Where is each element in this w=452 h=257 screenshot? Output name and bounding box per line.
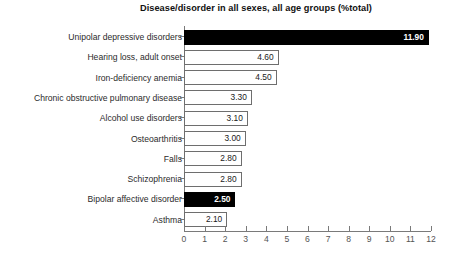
bar-row: Bipolar affective disorder2.50 [0, 189, 452, 209]
x-axis-tick-label: 4 [256, 234, 276, 244]
plot-area: Unipolar depressive disorders11.90Hearin… [0, 0, 452, 257]
x-axis-tick-label: 2 [215, 234, 235, 244]
bar-value-label: 4.50 [255, 71, 271, 84]
category-label: Unipolar depressive disorders [68, 27, 182, 47]
x-axis-tick [184, 226, 185, 231]
x-axis-tick-label: 8 [339, 234, 359, 244]
bar-row: Iron-deficiency anemia4.50 [0, 68, 452, 88]
bar-row: Chronic obstructive pulmonary disease3.3… [0, 88, 452, 108]
bar-value-label: 11.90 [403, 31, 424, 44]
bar-value-label: 3.30 [231, 91, 247, 104]
x-axis-tick [431, 226, 432, 231]
bar-row: Falls2.80 [0, 149, 452, 169]
bar-value-label: 3.10 [226, 112, 242, 125]
x-axis-tick [308, 226, 309, 231]
category-label: Hearing loss, adult onset [87, 47, 182, 67]
bar-row: Hearing loss, adult onset4.60 [0, 47, 452, 67]
x-axis-tick-label: 12 [421, 234, 441, 244]
x-axis-tick [390, 226, 391, 231]
bar-value-label: 2.80 [220, 152, 236, 165]
bar: 2.80 [184, 172, 242, 187]
bar: 3.30 [184, 90, 252, 105]
category-label: Asthma [153, 210, 182, 230]
category-label: Chronic obstructive pulmonary disease [34, 88, 182, 108]
x-axis-tick [287, 226, 288, 231]
x-axis-tick [246, 226, 247, 231]
x-axis-tick-label: 11 [400, 234, 420, 244]
category-label: Osteoarthritis [131, 129, 182, 149]
bar-row: Unipolar depressive disorders11.90 [0, 27, 452, 47]
bar-chart: Disease/disorder in all sexes, all age g… [0, 0, 452, 257]
x-axis-tick-label: 3 [236, 234, 256, 244]
x-axis-tick-label: 5 [277, 234, 297, 244]
bar-row: Schizophrenia2.80 [0, 169, 452, 189]
bar: 2.80 [184, 151, 242, 166]
category-label: Falls [164, 149, 182, 169]
bar: 4.60 [184, 50, 279, 65]
bar: 2.50 [184, 192, 235, 207]
bar-row: Osteoarthritis3.00 [0, 129, 452, 149]
bar: 3.00 [184, 131, 246, 146]
x-axis-tick-label: 1 [195, 234, 215, 244]
x-axis-tick-label: 6 [298, 234, 318, 244]
x-axis-tick [225, 226, 226, 231]
bar-value-label: 4.60 [257, 51, 273, 64]
x-axis-tick [205, 226, 206, 231]
bar: 3.10 [184, 111, 248, 126]
x-axis-tick [349, 226, 350, 231]
x-axis-tick [410, 226, 411, 231]
x-axis-tick-label: 7 [318, 234, 338, 244]
x-axis-tick-label: 10 [380, 234, 400, 244]
bar-value-label: 2.80 [220, 173, 236, 186]
category-label: Alcohol use disorders [100, 108, 182, 128]
x-axis-tick [266, 226, 267, 231]
category-label: Iron-deficiency anemia [96, 68, 182, 88]
x-axis-tick [328, 226, 329, 231]
x-axis-tick [369, 226, 370, 231]
x-axis-tick-label: 0 [174, 234, 194, 244]
bar: 2.10 [184, 212, 227, 227]
bar-value-label: 2.50 [214, 193, 230, 206]
category-label: Bipolar affective disorder [88, 189, 182, 209]
bar: 4.50 [184, 70, 277, 85]
x-axis-line [184, 231, 431, 232]
bar: 11.90 [184, 30, 429, 45]
x-axis-tick-label: 9 [359, 234, 379, 244]
bar-row: Alcohol use disorders3.10 [0, 108, 452, 128]
bar-value-label: 2.10 [206, 213, 222, 226]
bar-value-label: 3.00 [224, 132, 240, 145]
category-label: Schizophrenia [128, 169, 182, 189]
